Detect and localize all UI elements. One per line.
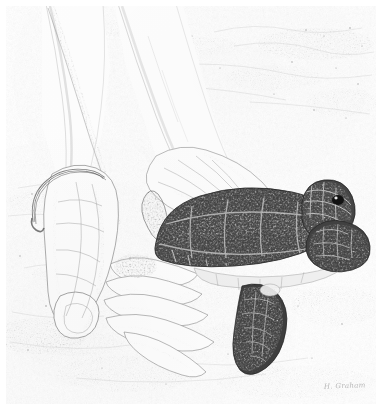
artwork-page: H. Graham Two human hands releasing a ju… — [0, 0, 382, 414]
drawing-canvas: H. Graham — [6, 6, 376, 404]
artist-signature: H. Graham — [324, 381, 366, 390]
left-hand — [6, 6, 376, 404]
